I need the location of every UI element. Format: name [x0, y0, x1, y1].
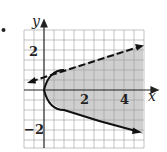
- tick-label-x-4: 4: [120, 92, 129, 107]
- y-axis-arrow-icon: [41, 20, 47, 27]
- bullet-dot: [2, 28, 6, 32]
- x-axis-label: x: [148, 88, 156, 104]
- tick-label-y-2: 2: [29, 44, 38, 59]
- inequality-graph: 2 −2 2 4 x y: [0, 0, 167, 152]
- tick-label-x-2: 2: [80, 92, 89, 107]
- tick-label-y-neg2: −2: [24, 122, 44, 137]
- y-axis-label: y: [31, 13, 41, 29]
- graph-figure: 2 −2 2 4 x y: [0, 0, 167, 152]
